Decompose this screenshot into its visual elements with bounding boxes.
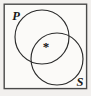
- venn-diagram-figure: P S *: [0, 0, 91, 96]
- intersection-element-marker: *: [43, 39, 50, 54]
- set-label-p: P: [12, 9, 20, 23]
- set-label-s: S: [77, 75, 84, 89]
- venn-diagram-canvas: P S *: [0, 0, 91, 96]
